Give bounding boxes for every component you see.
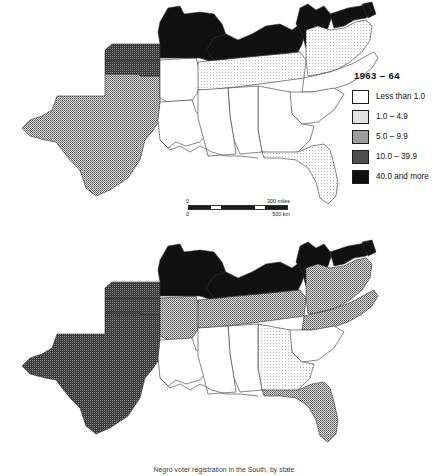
scalebar-miles-label: 300 miles (267, 198, 290, 204)
legend-entry: 5.0 – 9.9 (352, 130, 448, 144)
map-scalebar-1963-64: 0 300 miles 0 500 km (186, 198, 290, 218)
legend-swatch-dark (352, 150, 369, 164)
scalebar-miles-labels: 0 300 miles (186, 198, 290, 205)
state-florida (262, 382, 338, 442)
legend-entry: 10.0 – 39.9 (352, 150, 448, 164)
scalebar-segment (189, 206, 211, 209)
state-arkansas (160, 58, 200, 102)
legend-swatch-light (352, 110, 369, 124)
scalebar-segment (255, 206, 266, 209)
figure-caption: Negro voter registration in the South, b… (0, 466, 448, 476)
state-oklahoma (105, 282, 160, 314)
scalebar-graphic (188, 205, 288, 210)
legend-label: Less than 1.0 (376, 93, 425, 101)
state-florida (262, 144, 338, 204)
legend-swatch-less-than (352, 90, 369, 104)
scalebar-zero-label: 0 (186, 198, 189, 204)
state-texas (22, 74, 160, 196)
scalebar-km-labels: 0 500 km (186, 211, 290, 218)
scalebar-segment (221, 206, 254, 209)
legend-entry: 1.0 – 4.9 (352, 110, 448, 124)
map-legend-1963-64: 1963 – 64 Less than 1.0 1.0 – 4.9 5.0 – … (352, 70, 448, 190)
choropleth-map-1966-67 (0, 238, 448, 476)
legend-label: 40.0 and more (376, 173, 429, 181)
scalebar-km-label: 500 km (272, 211, 290, 217)
state-oklahoma (105, 44, 160, 76)
legend-label: 10.0 – 39.9 (376, 153, 417, 161)
state-arkansas (160, 296, 200, 340)
legend-entry: 40.0 and more (352, 170, 448, 184)
map-panel-1963-64: 1963 – 64 Less than 1.0 1.0 – 4.9 5.0 – … (0, 0, 448, 238)
legend-label: 1.0 – 4.9 (376, 113, 408, 121)
scalebar-segment (265, 206, 287, 209)
legend-swatch-black (352, 170, 369, 184)
scalebar-segment (211, 206, 222, 209)
legend-swatch-medium (352, 130, 369, 144)
state-texas (22, 312, 160, 434)
legend-title: 1963 – 64 (354, 70, 448, 81)
legend-label: 5.0 – 9.9 (376, 133, 408, 141)
map-panel-1966-67: 1966 – 67 Less than 5.0 5.0 – 9.9 10.0 –… (0, 238, 448, 476)
scalebar-zero-label: 0 (186, 211, 189, 217)
legend-entry: Less than 1.0 (352, 90, 448, 104)
